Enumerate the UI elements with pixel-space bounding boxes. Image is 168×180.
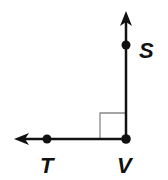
right-angle-marker	[100, 113, 126, 139]
label-t: T	[40, 153, 55, 178]
point-v	[121, 134, 131, 144]
label-v: V	[117, 153, 134, 178]
point-s	[122, 41, 131, 50]
point-t	[43, 135, 52, 144]
label-s: S	[139, 38, 154, 63]
right-angle-diagram: S T V	[0, 0, 168, 180]
